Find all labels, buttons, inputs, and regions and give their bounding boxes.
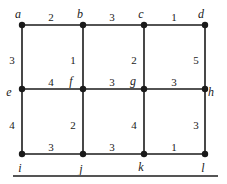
node-c [141, 22, 147, 28]
edge-weight-d-h: 5 [193, 54, 199, 66]
node-j [80, 151, 86, 157]
node-label-k: k [138, 160, 144, 174]
edge-weight-g-k: 4 [131, 119, 137, 131]
edge-weight-e-i: 4 [9, 119, 15, 131]
edge-weight-f-g: 3 [109, 76, 115, 88]
node-label-l: l [201, 161, 205, 175]
edge-weight-k-l: 1 [171, 141, 177, 153]
edge-weight-e-f: 4 [48, 76, 54, 88]
node-label-f: f [69, 74, 74, 88]
node-d [202, 22, 208, 28]
node-l [202, 151, 208, 157]
edge-weight-j-k: 3 [109, 141, 115, 153]
node-b [80, 22, 86, 28]
edge-weight-c-d: 1 [171, 11, 177, 23]
edge-weight-g-h: 3 [171, 76, 177, 88]
node-g [141, 86, 147, 92]
edge-weight-i-j: 3 [48, 141, 54, 153]
edge-weight-a-b: 2 [48, 11, 54, 23]
edge-weight-a-e: 3 [9, 54, 15, 66]
node-f [80, 86, 86, 92]
node-label-i: i [18, 161, 21, 175]
node-label-d: d [198, 7, 205, 21]
node-label-a: a [15, 7, 21, 21]
edge-weight-c-g: 2 [131, 54, 137, 66]
edge-weight-h-l: 3 [193, 119, 199, 131]
node-label-g: g [130, 74, 136, 88]
node-label-e: e [6, 85, 12, 99]
labels-group: 23131254334243331abcdefghijkl [6, 7, 214, 176]
node-label-b: b [77, 7, 83, 21]
weighted-grid-graph: 23131254334243331abcdefghijkl [0, 0, 227, 184]
edge-weight-b-f: 1 [70, 54, 76, 66]
edge-weight-b-c: 3 [109, 11, 115, 23]
bottom-rule [13, 175, 218, 177]
node-k [141, 151, 147, 157]
node-label-h: h [208, 85, 214, 99]
edges-group [22, 25, 205, 154]
node-i [19, 151, 25, 157]
edge-weight-f-j: 2 [70, 119, 76, 131]
node-e [19, 86, 25, 92]
node-label-j: j [77, 162, 83, 176]
node-a [19, 22, 25, 28]
node-label-c: c [138, 7, 144, 21]
